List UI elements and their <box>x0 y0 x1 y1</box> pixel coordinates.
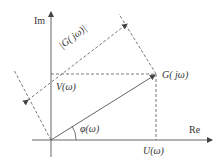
real-part-label: U(ω) <box>143 145 165 157</box>
magnitude-side-left <box>14 70 51 140</box>
real-axis-label: Re <box>189 124 201 135</box>
phase-arc <box>72 126 76 140</box>
imag-part-label: V(ω) <box>56 81 76 93</box>
imag-axis-label: Im <box>34 15 45 26</box>
magnitude-side-right <box>119 14 156 74</box>
magnitude-label: |G( jω)| <box>57 23 90 52</box>
phasor-diagram: Im Re G( jω) |G( jω)| V(ω) U(ω) φ(ω) <box>0 0 224 164</box>
point-label: G( jω) <box>162 69 189 81</box>
phase-label: φ(ω) <box>80 123 100 135</box>
